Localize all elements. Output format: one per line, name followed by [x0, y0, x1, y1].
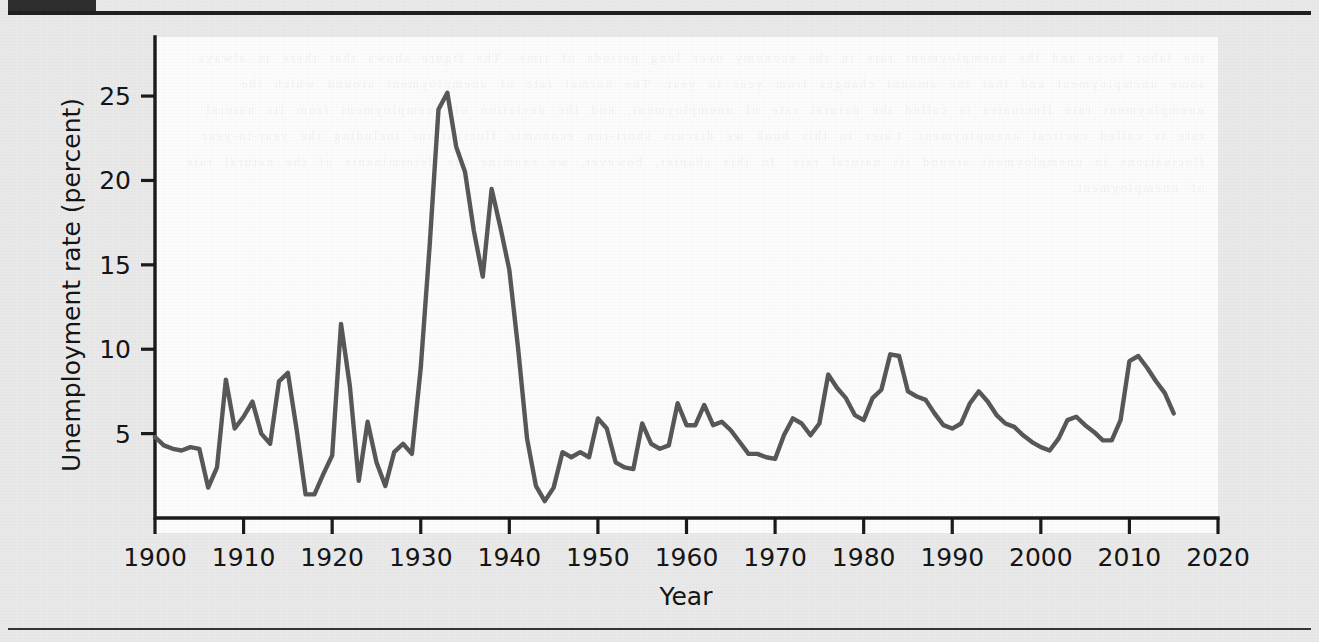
chart-figure: the labor force and the unemployment rat…: [0, 15, 1319, 625]
unemployment-rate-line: [155, 93, 1174, 501]
y-tick-label: 20: [99, 166, 131, 195]
y-tick-label: 5: [115, 420, 131, 449]
x-tick-label: 1950: [566, 543, 630, 572]
x-tick-label: 1900: [123, 543, 187, 572]
x-tick-label: 1990: [920, 543, 984, 572]
header-tab-marker: [8, 0, 96, 11]
x-axis-tick-labels: 1900191019201930194019501960197019801990…: [123, 543, 1250, 572]
x-tick-label: 2020: [1186, 543, 1250, 572]
x-tick-label: 2010: [1098, 543, 1162, 572]
x-tick-label: 2000: [1009, 543, 1073, 572]
y-tick-label: 10: [99, 335, 131, 364]
axis-lines: [155, 37, 1218, 518]
x-tick-label: 1940: [478, 543, 542, 572]
x-axis-ticks: [155, 518, 1218, 534]
y-axis-tick-labels: 510152025: [99, 82, 131, 449]
figure-page: the labor force and the unemployment rat…: [0, 0, 1319, 642]
x-tick-label: 1970: [743, 543, 807, 572]
x-tick-label: 1960: [655, 543, 719, 572]
x-tick-label: 1930: [389, 543, 453, 572]
axes-group: [155, 37, 1218, 518]
footer-divider-rule: [8, 628, 1311, 630]
x-tick-label: 1980: [832, 543, 896, 572]
y-tick-label: 25: [99, 82, 131, 111]
y-axis-title: Unemployment rate (percent): [57, 98, 86, 472]
x-axis-title: Year: [659, 582, 714, 611]
x-tick-label: 1920: [300, 543, 364, 572]
y-axis-ticks: [141, 96, 155, 434]
y-tick-label: 15: [99, 251, 131, 280]
x-tick-label: 1910: [212, 543, 276, 572]
line-chart-svg: 510152025 190019101920193019401950196019…: [0, 15, 1319, 625]
